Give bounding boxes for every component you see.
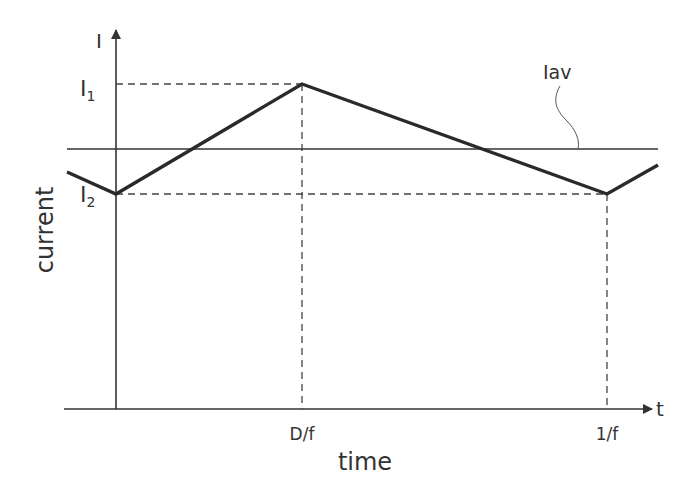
waveform-diagram: I t I1 I2 Iav D/f 1/f time current	[0, 0, 700, 488]
tick-label-df: D/f	[290, 424, 316, 444]
i2-label: I2	[80, 182, 95, 210]
current-waveform	[67, 84, 658, 194]
iav-leader	[556, 86, 579, 149]
tick-label-period: 1/f	[596, 424, 620, 444]
x-axis-symbol: t	[656, 397, 664, 421]
x-axis-label: time	[338, 448, 392, 476]
y-axis-symbol: I	[96, 29, 102, 53]
i1-label: I1	[80, 76, 95, 104]
iav-label: Iav	[543, 61, 572, 83]
y-axis-label: current	[31, 187, 59, 274]
